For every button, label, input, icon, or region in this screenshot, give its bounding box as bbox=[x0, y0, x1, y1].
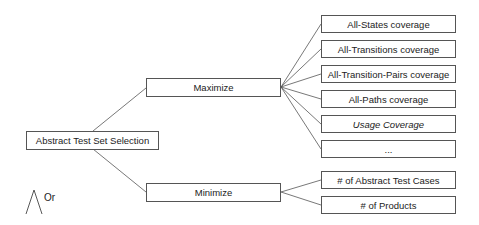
leaf-all-transition-pairs: All-Transition-Pairs coverage bbox=[321, 65, 456, 83]
leaf-ellipsis: ... bbox=[321, 140, 456, 158]
or-gate-icon bbox=[22, 188, 44, 216]
maximize-node: Maximize bbox=[146, 78, 281, 97]
leaf-num-products: # of Products bbox=[321, 196, 456, 214]
root-node-label: Abstract Test Set Selection bbox=[36, 135, 149, 146]
leaf-all-states: All-States coverage bbox=[321, 15, 456, 33]
leaf-all-paths: All-Paths coverage bbox=[321, 90, 456, 108]
leaf-label: # of Products bbox=[361, 200, 417, 211]
leaf-usage-coverage: Usage Coverage bbox=[321, 115, 456, 133]
leaf-label: ... bbox=[385, 144, 393, 155]
minimize-node-label: Minimize bbox=[195, 187, 232, 198]
leaf-label: All-States coverage bbox=[347, 19, 429, 30]
legend-or-label: Or bbox=[44, 192, 55, 203]
maximize-node-label: Maximize bbox=[193, 82, 233, 93]
leaf-label: All-Paths coverage bbox=[349, 94, 429, 105]
leaf-all-transitions: All-Transitions coverage bbox=[321, 40, 456, 58]
leaf-label: # of Abstract Test Cases bbox=[337, 175, 439, 186]
leaf-num-abstract-test-cases: # of Abstract Test Cases bbox=[321, 171, 456, 189]
root-node: Abstract Test Set Selection bbox=[26, 131, 159, 150]
leaf-label: All-Transition-Pairs coverage bbox=[328, 69, 450, 80]
leaf-label: Usage Coverage bbox=[353, 119, 424, 130]
minimize-node: Minimize bbox=[146, 183, 281, 202]
leaf-label: All-Transitions coverage bbox=[338, 44, 440, 55]
